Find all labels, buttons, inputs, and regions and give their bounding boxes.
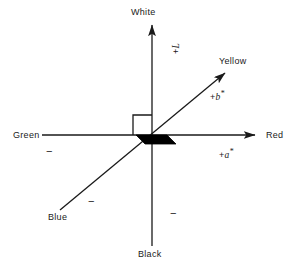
- plus-sign-L: +: [171, 48, 181, 54]
- axis-label-white: White: [131, 8, 156, 17]
- minus-sign-lightness: −: [170, 208, 177, 219]
- star-b: *: [221, 89, 225, 98]
- minus-sign-a-star: −: [46, 146, 53, 157]
- axis-symbol-plus-L: +L: [172, 43, 182, 54]
- axis-label-blue: Blue: [48, 213, 67, 222]
- axis-label-green: Green: [13, 131, 40, 140]
- axis-symbol-plus-a-star: +a*: [219, 148, 234, 161]
- axis-label-black: Black: [138, 250, 162, 259]
- star-a: *: [230, 147, 234, 156]
- right-angle-square-marker: [133, 115, 152, 135]
- cielab-axes-figure: White +L − Black Red +a* Green − Yellow …: [0, 0, 293, 272]
- axis-label-yellow: Yellow: [219, 57, 247, 66]
- axis-symbol-plus-b-star: +b*: [210, 90, 225, 103]
- minus-sign-b-star: −: [88, 196, 95, 207]
- axis-label-red: Red: [266, 131, 283, 140]
- symbol-L: L: [171, 43, 181, 49]
- diagram-canvas: [0, 0, 293, 272]
